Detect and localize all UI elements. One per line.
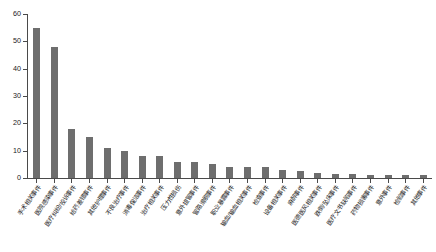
bar-slot [63, 14, 81, 178]
x-label-slot: 压力性损伤 [169, 184, 187, 250]
x-tick-slot [414, 179, 432, 183]
bar-slot [116, 14, 134, 178]
x-tick-mark [317, 179, 318, 183]
y-tick-label: 10 [13, 147, 21, 154]
bar-slot [46, 14, 64, 178]
bar-slot [28, 14, 46, 178]
bar [191, 162, 198, 178]
x-tick-slot [169, 179, 187, 183]
x-tick-mark [370, 179, 371, 183]
x-axis-ticks [28, 179, 432, 183]
bar [420, 175, 427, 178]
x-tick-slot [362, 179, 380, 183]
y-tick-label: 60 [13, 10, 21, 17]
bar-slot [414, 14, 432, 178]
bar-slot [344, 14, 362, 178]
x-tick-mark [159, 179, 160, 183]
x-tick-mark [335, 179, 336, 183]
x-tick-slot [221, 179, 239, 183]
x-label-slot: 管路滑脱事件 [204, 184, 222, 250]
y-tick-label: 40 [13, 65, 21, 72]
bar-chart-figure: 0102030405060 手术相关事件医院感染事件医疗纠纷/投诉事件给药差错事… [0, 0, 436, 252]
bar-slot [362, 14, 380, 178]
bar [156, 156, 163, 178]
x-axis-category-labels: 手术相关事件医院感染事件医疗纠纷/投诉事件给药差错事件其他护理事件不良治疗事件消… [28, 184, 432, 250]
bar [121, 151, 128, 178]
y-tick-label: 20 [13, 120, 21, 127]
bar [385, 175, 392, 178]
x-tick-slot [291, 179, 309, 183]
x-tick-mark [36, 179, 37, 183]
x-tick-slot [116, 179, 134, 183]
x-tick-mark [89, 179, 90, 183]
x-label-slot: 手术相关事件 [28, 184, 46, 250]
y-tick-mark [23, 96, 27, 97]
x-tick-slot [151, 179, 169, 183]
x-tick-mark [212, 179, 213, 183]
y-tick-mark [23, 14, 27, 15]
x-label-slot: 检查事件 [256, 184, 274, 250]
bar-slot [169, 14, 187, 178]
bar-slot [81, 14, 99, 178]
bar [314, 173, 321, 178]
x-label-slot: 输血/输血相关事件 [239, 184, 257, 250]
bar [279, 170, 286, 178]
bar-slot [133, 14, 151, 178]
x-label-slot: 医疗纠纷/投诉事件 [63, 184, 81, 250]
x-tick-slot [327, 179, 345, 183]
bar [104, 148, 111, 178]
bar-slot [186, 14, 204, 178]
bar [402, 175, 409, 178]
x-tick-slot [309, 179, 327, 183]
bars-layer [28, 14, 432, 178]
bar [226, 167, 233, 178]
x-tick-slot [256, 179, 274, 183]
x-tick-slot [239, 179, 257, 183]
x-label-slot: 药物损害事件 [362, 184, 380, 250]
y-tick-mark [23, 151, 27, 152]
x-label-slot: 检验事件 [397, 184, 415, 250]
y-tick-mark [23, 41, 27, 42]
bar [262, 167, 269, 178]
bar [244, 167, 251, 178]
x-tick-mark [229, 179, 230, 183]
x-tick-mark [300, 179, 301, 183]
x-tick-slot [379, 179, 397, 183]
y-tick-label: 50 [13, 38, 21, 45]
x-label-slot: 其他事件 [414, 184, 432, 250]
x-tick-mark [71, 179, 72, 183]
x-tick-slot [133, 179, 151, 183]
x-label-slot: 治疗相关事件 [151, 184, 169, 250]
x-tick-mark [107, 179, 108, 183]
bar-slot [379, 14, 397, 178]
bar [297, 171, 304, 178]
x-label-slot: 其他护理事件 [98, 184, 116, 250]
x-label-slot: 医疗文书缺陷事件 [344, 184, 362, 250]
y-tick-mark [23, 69, 27, 70]
bar [174, 162, 181, 178]
x-tick-slot [204, 179, 222, 183]
bar [332, 174, 339, 178]
bar [367, 175, 374, 178]
bar-slot [291, 14, 309, 178]
bar-slot [397, 14, 415, 178]
x-tick-slot [63, 179, 81, 183]
bar [51, 47, 58, 178]
bar-slot [98, 14, 116, 178]
x-tick-mark [124, 179, 125, 183]
x-tick-slot [274, 179, 292, 183]
x-label-slot: 意外事件 [379, 184, 397, 250]
x-tick-slot [46, 179, 64, 183]
bar [86, 137, 93, 178]
x-tick-mark [352, 179, 353, 183]
bar-slot [239, 14, 257, 178]
y-tick-mark [23, 123, 27, 124]
bar [68, 129, 75, 178]
bar-slot [221, 14, 239, 178]
x-label-slot: 消毒保洁事件 [133, 184, 151, 250]
y-tick-label: 0 [17, 174, 21, 181]
bar [349, 174, 356, 178]
x-tick-mark [142, 179, 143, 183]
x-tick-slot [98, 179, 116, 183]
x-tick-slot [186, 179, 204, 183]
